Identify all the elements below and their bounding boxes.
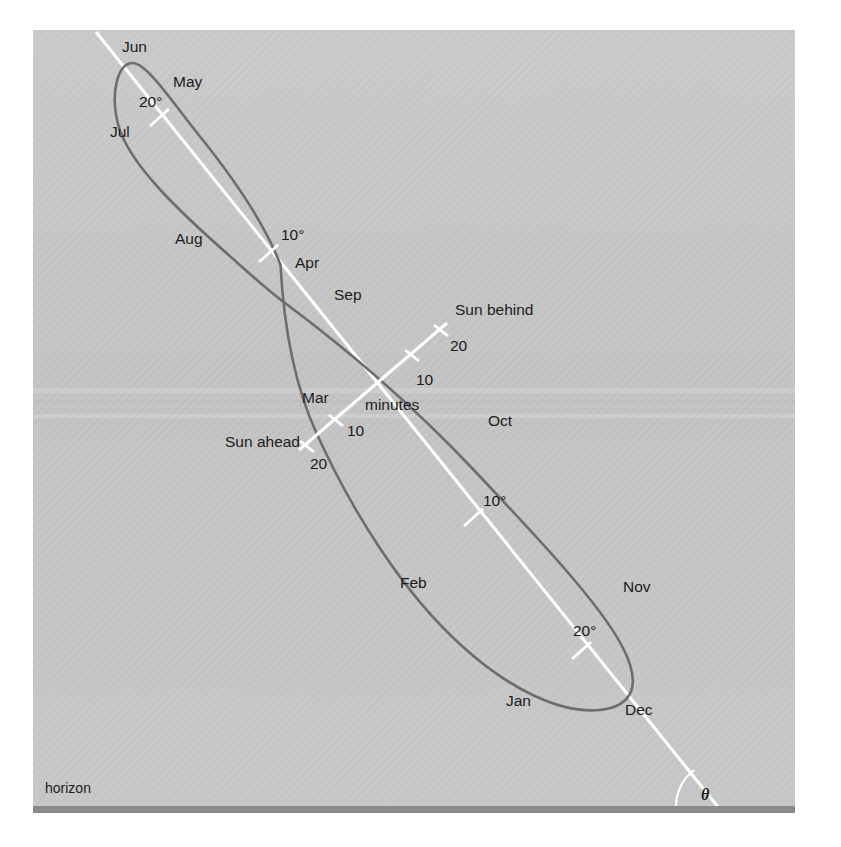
analemma-figure: Jun May Jul Aug Apr Sep Mar Oct Feb Nov … — [0, 0, 841, 847]
sky-shading — [33, 30, 795, 812]
month-label-feb: Feb — [400, 574, 427, 591]
minutes-label-10-behind: 10 — [416, 371, 434, 388]
sun-behind-caption: Sun behind — [455, 301, 533, 318]
month-label-jul: Jul — [110, 123, 130, 140]
minutes-label-20-behind: 20 — [450, 337, 468, 354]
month-label-nov: Nov — [623, 578, 651, 595]
month-label-sep: Sep — [334, 286, 362, 303]
month-label-apr: Apr — [295, 254, 319, 271]
month-label-dec: Dec — [625, 701, 653, 718]
theta-label: θ — [701, 786, 710, 803]
sun-ahead-caption: Sun ahead — [225, 433, 300, 450]
altitude-label-10-lower: 10° — [483, 492, 506, 509]
analemma-canvas: Jun May Jul Aug Apr Sep Mar Oct Feb Nov … — [0, 0, 841, 847]
altitude-label-20-lower: 20° — [573, 622, 596, 639]
month-label-may: May — [173, 73, 203, 90]
sky-panel — [33, 30, 795, 812]
altitude-label-20-upper: 20° — [139, 93, 162, 110]
month-label-mar: Mar — [302, 389, 329, 406]
altitude-label-10-upper: 10° — [281, 226, 304, 243]
month-label-jan: Jan — [506, 692, 531, 709]
horizon-bar — [33, 806, 795, 813]
minutes-label-10-ahead: 10 — [347, 422, 365, 439]
month-label-aug: Aug — [175, 230, 203, 247]
horizon-label: horizon — [45, 780, 91, 796]
month-label-jun: Jun — [122, 38, 147, 55]
month-label-oct: Oct — [488, 412, 513, 429]
minutes-label-20-ahead: 20 — [310, 455, 328, 472]
minutes-caption: minutes — [365, 396, 420, 413]
